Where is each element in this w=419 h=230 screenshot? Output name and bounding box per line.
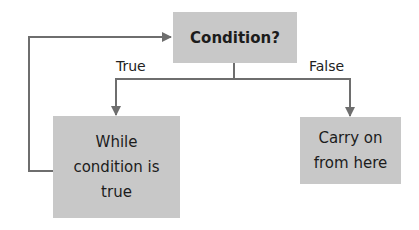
false-edge-label: False [309,58,344,74]
condition-node: Condition? [173,12,297,63]
carry-on-node: Carry on from here [300,117,401,184]
while-body-node: While condition is true [53,116,180,218]
true-edge-label: True [116,58,146,74]
condition-text: Condition? [190,29,280,47]
carry-on-text: Carry on from here [306,126,396,176]
while-body-text: While condition is true [62,130,172,205]
